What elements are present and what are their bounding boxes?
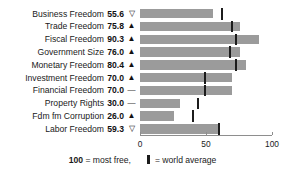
category-label: Labor Freedom bbox=[0, 123, 104, 136]
score-bar bbox=[140, 60, 246, 69]
trend-down-icon: ▽ bbox=[126, 8, 137, 21]
category-score: 59.3 bbox=[104, 123, 124, 136]
axis-tick-label: 100 bbox=[265, 139, 279, 149]
trend-up-icon: ▲ bbox=[126, 46, 137, 59]
x-axis: 050100 bbox=[140, 135, 272, 136]
world-average-marker bbox=[229, 46, 231, 58]
category-score: 30.0 bbox=[104, 97, 124, 110]
bar-track bbox=[140, 33, 272, 46]
world-average-legend-marker-icon bbox=[147, 155, 149, 164]
category-label: Business Freedom bbox=[0, 8, 104, 21]
category-label: Fdm fm Corruption bbox=[0, 110, 104, 123]
chart-row: Investment Freedom70.0▲ bbox=[0, 72, 285, 85]
world-average-marker bbox=[231, 21, 233, 33]
category-score: 70.0 bbox=[104, 72, 124, 85]
axis-tick bbox=[272, 132, 273, 135]
category-label: Investment Freedom bbox=[0, 72, 104, 85]
score-bar bbox=[140, 9, 213, 18]
world-average-marker bbox=[235, 59, 237, 71]
chart-row: Financial Freedom70.0— bbox=[0, 84, 285, 97]
chart-row: Fiscal Freedom90.3▲ bbox=[0, 33, 285, 46]
category-label: Monetary Freedom bbox=[0, 59, 104, 72]
category-label: Financial Freedom bbox=[0, 84, 104, 97]
score-bar bbox=[140, 111, 174, 120]
category-label: Trade Freedom bbox=[0, 20, 104, 33]
world-average-marker bbox=[221, 8, 223, 20]
category-score: 90.3 bbox=[104, 33, 124, 46]
axis-tick-label: 0 bbox=[138, 139, 143, 149]
caption-legend-text: = world average bbox=[155, 155, 216, 165]
bar-track bbox=[140, 59, 272, 72]
bar-track bbox=[140, 110, 272, 123]
world-average-marker bbox=[204, 72, 206, 84]
bar-track bbox=[140, 20, 272, 33]
world-average-marker bbox=[218, 123, 220, 135]
bar-track bbox=[140, 84, 272, 97]
score-bar bbox=[140, 99, 180, 108]
category-score: 55.6 bbox=[104, 8, 124, 21]
trend-up-icon: ▲ bbox=[126, 20, 137, 33]
trend-up-icon: ▲ bbox=[126, 72, 137, 85]
chart-row: Monetary Freedom80.4▲ bbox=[0, 59, 285, 72]
trend-down-icon: ▽ bbox=[126, 123, 137, 136]
trend-up-icon: ▲ bbox=[126, 33, 137, 46]
category-score: 70.0 bbox=[104, 84, 124, 97]
bar-track bbox=[140, 72, 272, 85]
index-of-economic-freedom-chart: Business Freedom55.6▽Trade Freedom75.8▲F… bbox=[0, 0, 285, 175]
bar-track bbox=[140, 8, 272, 21]
category-score: 75.8 bbox=[104, 20, 124, 33]
caption-scale-text: = most free, bbox=[85, 155, 131, 165]
chart-row: Business Freedom55.6▽ bbox=[0, 8, 285, 21]
category-label: Government Size bbox=[0, 46, 104, 59]
world-average-marker bbox=[192, 110, 194, 122]
trend-flat-icon: — bbox=[126, 84, 137, 97]
chart-row: Government Size76.0▲ bbox=[0, 46, 285, 59]
score-bar bbox=[140, 35, 259, 44]
world-average-marker bbox=[204, 85, 206, 97]
category-score: 80.4 bbox=[104, 59, 124, 72]
chart-row: Fdm fm Corruption26.0▲ bbox=[0, 110, 285, 123]
trend-up-icon: ▲ bbox=[126, 59, 137, 72]
axis-tick bbox=[206, 132, 207, 135]
world-average-marker bbox=[197, 98, 199, 110]
chart-caption: 100 = most free, = world average bbox=[0, 154, 285, 166]
category-score: 26.0 bbox=[104, 110, 124, 123]
bar-track bbox=[140, 46, 272, 59]
axis-tick-label: 50 bbox=[201, 139, 210, 149]
score-bar bbox=[140, 73, 232, 82]
caption-scale-value: 100 bbox=[69, 155, 83, 165]
trend-flat-icon: — bbox=[126, 97, 137, 110]
score-bar bbox=[140, 47, 240, 56]
bar-track bbox=[140, 97, 272, 110]
score-bar bbox=[140, 22, 240, 31]
chart-row: Trade Freedom75.8▲ bbox=[0, 20, 285, 33]
trend-up-icon: ▲ bbox=[126, 110, 137, 123]
score-bar bbox=[140, 86, 232, 95]
world-average-marker bbox=[235, 34, 237, 46]
axis-tick bbox=[140, 132, 141, 135]
category-label: Fiscal Freedom bbox=[0, 33, 104, 46]
chart-row: Property Rights30.0— bbox=[0, 97, 285, 110]
category-score: 76.0 bbox=[104, 46, 124, 59]
category-label: Property Rights bbox=[0, 97, 104, 110]
